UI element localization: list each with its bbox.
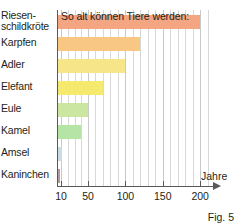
category-label: Adler [1,59,54,71]
category-label-line: schildkröte [1,21,54,33]
x-axis-title: Jahre [201,170,227,182]
x-axis-tick-label: 100 [117,190,135,202]
x-axis-tick-label: 150 [154,190,172,202]
bar [57,103,88,117]
x-axis-tick-label: 10 [55,190,67,202]
chart-title: So alt können Tiere werden: [61,10,189,23]
x-axis-tick [88,181,89,187]
figure-caption: Fig. 5 [208,211,234,223]
x-axis-tick [163,181,164,187]
category-label: Amsel [1,147,54,159]
category-label: Kamel [1,125,54,137]
category-label: Eule [1,103,54,115]
x-axis-line [57,186,215,187]
bar [57,81,103,95]
category-label: Karpfen [1,37,54,49]
bar [57,59,125,73]
x-axis-tick-label: 50 [82,190,94,202]
plot-area [57,10,225,186]
x-axis-tick [61,181,62,187]
y-axis-category-labels: Riesen-schildkröteKarpfenAdlerElefantEul… [0,10,56,186]
figure-chart-animal-lifespans: Riesen-schildkröteKarpfenAdlerElefantEul… [0,0,238,224]
x-axis-tick-label: 200 [191,190,209,202]
bar [57,37,140,51]
y-axis-line [57,10,58,187]
category-label: Riesen-schildkröte [1,10,54,33]
bar-series [57,10,225,186]
x-axis-arrow-icon [213,182,221,190]
category-label: Elefant [1,81,54,93]
bar [57,125,81,139]
category-label: Kaninchen [1,169,54,181]
x-axis-tick [125,181,126,187]
